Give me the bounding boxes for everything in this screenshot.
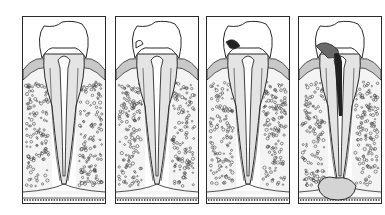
- tooth-dentin-decay-illustration: [206, 16, 290, 204]
- tooth-enamel-decay-illustration: [115, 16, 199, 204]
- abscess: [318, 177, 356, 200]
- panel-stage-1: Healthy tooth: [22, 16, 106, 204]
- panel-stage-3: Dentin decay: [206, 16, 290, 204]
- panel-stage-4: Pulp infection with abscess: [298, 16, 382, 204]
- tooth-pulp-abscess-illustration: [298, 16, 382, 204]
- panel-stage-2: Enamel decay: [115, 16, 199, 204]
- tooth-healthy-illustration: [22, 16, 106, 204]
